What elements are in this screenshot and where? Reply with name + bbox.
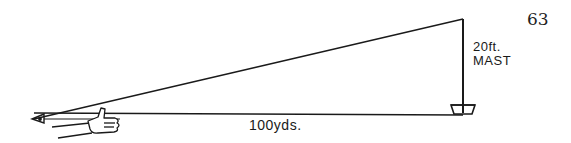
sight-line-masthead [34, 19, 463, 119]
page-number: 63 [527, 9, 549, 29]
mast-label: 20ft. MAST [473, 40, 511, 68]
mast-name-label: MAST [473, 54, 511, 68]
distance-label: 100yds. [249, 117, 302, 133]
mast-height-label: 20ft. [473, 40, 511, 54]
